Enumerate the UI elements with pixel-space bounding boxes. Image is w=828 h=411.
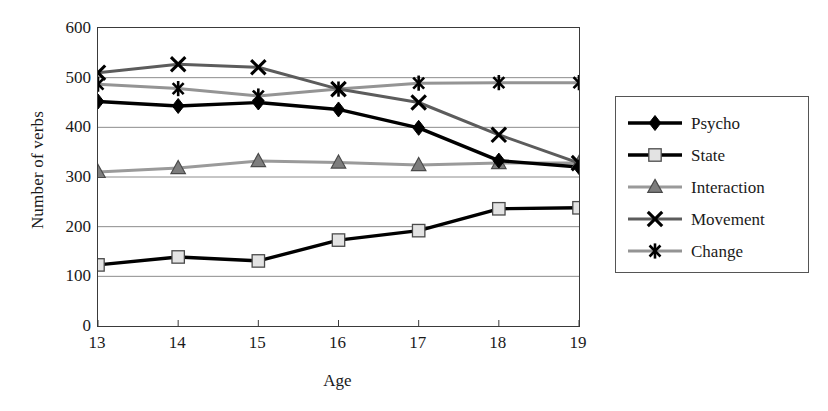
x-tick-label: 13 xyxy=(67,333,127,353)
legend-label: Movement xyxy=(691,211,765,228)
legend-item-state[interactable]: State xyxy=(616,139,808,171)
data-point-state-13 xyxy=(649,149,661,161)
x-tick-label: 17 xyxy=(388,333,448,353)
x-tick-label: 18 xyxy=(468,333,528,353)
legend-marker-triangle-icon xyxy=(626,176,684,198)
x-tick-label: 15 xyxy=(227,333,287,353)
legend-label: Interaction xyxy=(691,179,765,196)
x-tick-label: 19 xyxy=(548,333,608,353)
legend-item-psycho[interactable]: Psycho xyxy=(616,107,808,139)
line-chart-figure: Number of verbs 0100200300400500600 1314… xyxy=(0,0,828,411)
legend-label: Change xyxy=(691,243,743,260)
x-tick-label: 14 xyxy=(147,333,207,353)
legend-item-movement[interactable]: Movement xyxy=(616,203,808,235)
x-tick-label: 16 xyxy=(308,333,368,353)
legend-marker-asterisk-icon xyxy=(626,240,684,262)
data-point-psycho-13 xyxy=(649,116,661,131)
legend-item-interaction[interactable]: Interaction xyxy=(616,171,808,203)
legend-marker-x-icon xyxy=(626,208,684,230)
legend-marker-square-icon xyxy=(626,144,684,166)
legend-marker-diamond-icon xyxy=(626,112,684,134)
legend-label: State xyxy=(691,147,725,164)
chart-legend: PsychoStateInteractionMovementChange xyxy=(615,96,809,273)
x-axis-title: Age xyxy=(97,371,578,391)
legend-label: Psycho xyxy=(691,115,740,132)
legend-item-change[interactable]: Change xyxy=(616,235,808,267)
